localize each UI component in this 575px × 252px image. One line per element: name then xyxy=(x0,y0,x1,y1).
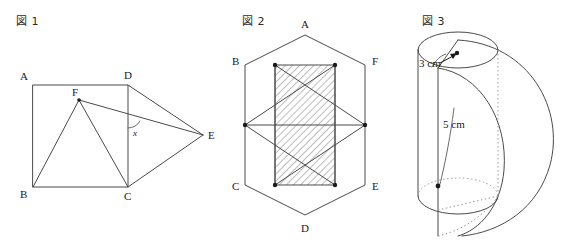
figure-2-label-d: D xyxy=(301,222,309,234)
figure-1-drawing: A B C D E F x xyxy=(0,0,230,252)
segment-de xyxy=(128,85,203,135)
figure-2-panel: 図 2 xyxy=(230,0,410,252)
arrow-3cm xyxy=(440,53,457,63)
angle-arc-x xyxy=(128,121,140,128)
figure-1-label-d: D xyxy=(124,69,132,81)
figure-1-panel: 図 1 A B C D E F xyxy=(0,0,230,252)
figure-2-label-f: F xyxy=(372,55,378,67)
figure-2-label-e: E xyxy=(372,180,379,192)
figure-2-label-a: A xyxy=(301,18,309,30)
segment-fe xyxy=(79,100,203,135)
figure-sheet: 図 1 A B C D E F xyxy=(0,0,575,252)
dimension-label-3cm: 3 cm xyxy=(419,57,441,69)
cylinder-top-back-arc xyxy=(418,32,498,50)
point-radius-end xyxy=(455,51,459,55)
figure-3-panel: 図 3 xyxy=(410,0,575,252)
figure-1-label-e: E xyxy=(208,129,215,141)
revolution-inner-curve xyxy=(438,68,504,236)
figure-1-label-f: F xyxy=(72,86,78,98)
hidden-lines-group xyxy=(418,50,498,236)
figure-2-label-b: B xyxy=(232,55,239,67)
point-height-end xyxy=(436,184,441,189)
figure-3-drawing: 3 cm 5 cm xyxy=(410,0,575,252)
triangle-bfc xyxy=(33,100,128,187)
revolution-outer-surface xyxy=(458,40,553,236)
figure-1-label-c: C xyxy=(124,190,131,202)
cylinder-bottom-back-arc xyxy=(418,178,498,196)
figure-2-label-c: C xyxy=(232,180,239,192)
segment-ce xyxy=(128,135,203,187)
figure-1-angle-label-x: x xyxy=(132,128,137,138)
figure-1-label-a: A xyxy=(20,70,28,82)
point-f-marker xyxy=(77,98,81,102)
figure-2-drawing: A B C D E F xyxy=(230,0,410,252)
dimension-label-5cm: 5 cm xyxy=(443,118,465,130)
figure-1-label-b: B xyxy=(20,188,27,200)
